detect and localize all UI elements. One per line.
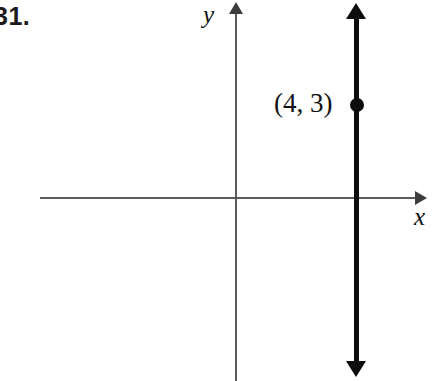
x-axis-line <box>40 197 421 199</box>
x-axis-label: x <box>414 203 425 231</box>
plotted-vertical-line <box>354 16 359 364</box>
plot-line-down-arrow-icon <box>346 361 366 377</box>
y-axis-arrow-icon <box>229 2 243 14</box>
math-figure: 31. y x (4, 3) <box>0 0 438 381</box>
y-axis-label: y <box>203 1 214 29</box>
problem-number: 31. <box>0 2 30 31</box>
y-axis-line <box>235 10 237 381</box>
plot-line-up-arrow-icon <box>346 3 366 19</box>
plotted-point-marker <box>350 98 364 112</box>
plotted-point-label: (4, 3) <box>274 88 332 119</box>
